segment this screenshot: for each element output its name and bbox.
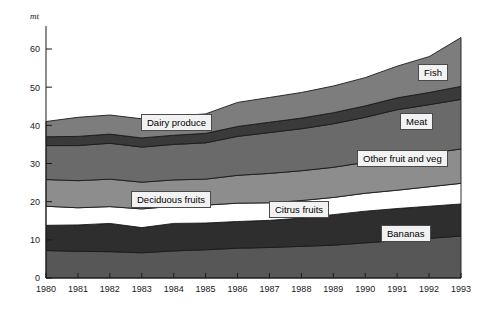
series-label-other-fruit-and-veg: Other fruit and veg — [357, 150, 448, 167]
series-label-citrus-fruits: Citrus fruits — [269, 201, 329, 218]
x-tick-label: 1993 — [451, 284, 471, 294]
series-label-meat: Meat — [400, 113, 433, 130]
y-tick-label: 60 — [30, 44, 40, 54]
x-tick-label: 1990 — [355, 284, 375, 294]
x-tick-label: 1983 — [132, 284, 152, 294]
x-tick-label: 1986 — [228, 284, 248, 294]
y-tick-label: 0 — [35, 273, 40, 283]
x-tick-label: 1991 — [387, 284, 407, 294]
x-tick-label: 1984 — [164, 284, 184, 294]
x-tick-label: 1981 — [68, 284, 88, 294]
x-tick-label: 1992 — [419, 284, 439, 294]
y-tick-label: 40 — [30, 121, 40, 131]
x-tick-label: 1985 — [196, 284, 216, 294]
x-tick-label: 1987 — [259, 284, 279, 294]
y-axis-unit-label: mt — [30, 11, 39, 21]
y-tick-label: 30 — [30, 159, 40, 169]
y-tick-label: 20 — [30, 197, 40, 207]
x-tick-label: 1989 — [323, 284, 343, 294]
series-label-deciduous-fruits: Deciduous fruits — [131, 191, 211, 208]
stacked-area-chart: 0102030405060 19801981198219831984198519… — [0, 0, 492, 313]
series-label-bananas: Bananas — [381, 225, 431, 242]
series-label-fish: Fish — [418, 64, 448, 81]
x-tick-label: 1980 — [36, 284, 56, 294]
y-tick-label: 50 — [30, 83, 40, 93]
y-tick-label: 10 — [30, 235, 40, 245]
x-tick-label: 1988 — [291, 284, 311, 294]
x-tick-label: 1982 — [100, 284, 120, 294]
series-label-dairy-produce: Dairy produce — [141, 114, 212, 131]
